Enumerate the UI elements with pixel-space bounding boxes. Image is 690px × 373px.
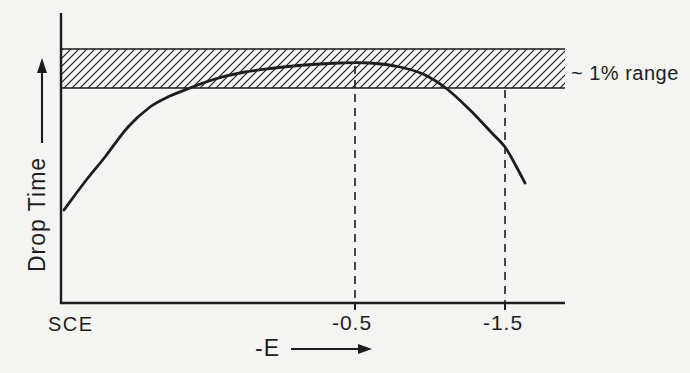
x-axis-label: -E bbox=[255, 335, 280, 361]
x-tick-label-neg-1-5: -1.5 bbox=[483, 311, 523, 334]
x-tick-label-neg-0-5: -0.5 bbox=[332, 311, 372, 334]
labels-group: SCE-0.5-1.5~ 1% range-EDrop Time bbox=[24, 62, 679, 361]
x-axis-origin-label: SCE bbox=[48, 313, 94, 335]
one-percent-band bbox=[61, 49, 565, 88]
y-axis-direction-arrow bbox=[37, 58, 47, 143]
drop-time-vs-potential-figure: SCE-0.5-1.5~ 1% range-EDrop Time bbox=[0, 0, 690, 373]
chart-canvas: SCE-0.5-1.5~ 1% range-EDrop Time bbox=[0, 0, 690, 373]
hatch-band-group bbox=[61, 49, 565, 88]
page: { "colors": { "background": "#f4f4f2", "… bbox=[0, 0, 690, 373]
arrows-group bbox=[37, 58, 372, 354]
dashed-guides-group bbox=[355, 66, 505, 303]
band-range-label: ~ 1% range bbox=[571, 62, 679, 84]
arrow-head bbox=[37, 58, 47, 73]
arrow-head bbox=[358, 344, 372, 354]
x-axis-direction-arrow bbox=[291, 344, 372, 354]
y-axis-label: Drop Time bbox=[24, 157, 50, 272]
